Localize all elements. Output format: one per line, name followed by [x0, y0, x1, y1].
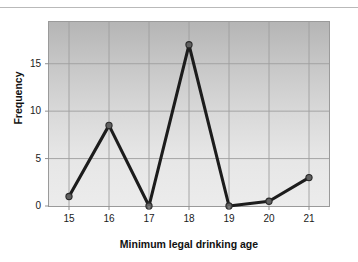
data-point-marker	[186, 42, 192, 48]
x-tick-label: 18	[177, 214, 201, 224]
data-point-marker	[266, 198, 272, 204]
x-tick-label: 20	[257, 214, 281, 224]
x-tick-label: 21	[297, 214, 321, 224]
data-point-marker	[66, 193, 72, 199]
x-axis-title: Minimum legal drinking age	[48, 238, 330, 250]
x-tick-label: 15	[57, 214, 81, 224]
data-point-marker	[306, 174, 312, 180]
x-tick-label: 17	[137, 214, 161, 224]
x-tick-label: 16	[97, 214, 121, 224]
y-tick-label: 5	[15, 154, 41, 164]
y-tick-label: 0	[15, 201, 41, 211]
y-axis-title: Frequency	[12, 52, 24, 144]
chart-figure: 051015 15161718192021 Minimum legal drin…	[0, 0, 358, 262]
data-point-marker	[106, 122, 112, 128]
x-tick-label: 19	[217, 214, 241, 224]
